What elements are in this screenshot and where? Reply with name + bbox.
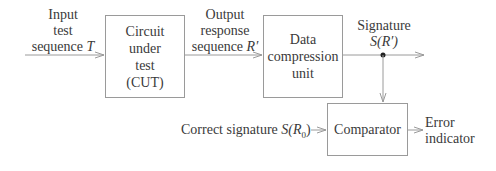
circuit-under-test-block: Circuit under test (CUT): [105, 15, 185, 98]
input-label-line2: test: [28, 23, 98, 39]
cut-line1: Circuit: [126, 23, 165, 40]
correct-signature-label: Correct signature S(R0): [181, 122, 311, 143]
cut-line3: test: [135, 57, 154, 74]
output-label-line2: response: [190, 23, 260, 39]
output-label: Output response sequence R′: [190, 7, 260, 55]
signature-label-line2: S(R′): [352, 34, 416, 50]
cut-line4: (CUT): [126, 74, 163, 91]
input-label: Input test sequence T: [28, 7, 98, 55]
cut-line2: under: [129, 40, 161, 57]
dcu-line2: compression: [268, 48, 339, 65]
input-label-line1: Input: [28, 7, 98, 23]
dcu-line3: unit: [292, 65, 314, 82]
comparator-block: Comparator: [327, 103, 408, 156]
signature-label-line1: Signature: [352, 18, 416, 34]
error-indicator-label: Error indicator: [425, 115, 475, 147]
output-label-line3: sequence R′: [190, 39, 260, 55]
error-label-line1: Error: [425, 115, 475, 131]
error-label-line2: indicator: [425, 131, 475, 147]
dcu-line1: Data: [290, 31, 316, 48]
signature-label: Signature S(R′): [352, 18, 416, 50]
output-label-line1: Output: [190, 7, 260, 23]
comparator-label: Comparator: [334, 121, 401, 138]
data-compression-unit-block: Data compression unit: [263, 15, 343, 98]
input-label-line3: sequence T: [28, 39, 98, 55]
